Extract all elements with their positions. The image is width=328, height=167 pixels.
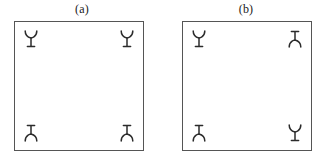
panel-a: (a) [0, 0, 164, 167]
panel-a-box [14, 21, 144, 151]
figure-container: (a) [0, 0, 328, 167]
y-receptor-icon [117, 28, 137, 50]
panel-b-box [182, 21, 312, 151]
y-receptor-icon [117, 122, 137, 144]
y-receptor-icon [21, 122, 41, 144]
y-receptor-icon [189, 122, 209, 144]
y-receptor-icon [285, 28, 305, 50]
panel-b-label: (b) [164, 1, 328, 17]
panel-b: (b) [164, 0, 328, 167]
y-receptor-icon [21, 28, 41, 50]
y-receptor-icon [285, 122, 305, 144]
y-receptor-icon [189, 28, 209, 50]
panel-a-label: (a) [0, 1, 164, 17]
